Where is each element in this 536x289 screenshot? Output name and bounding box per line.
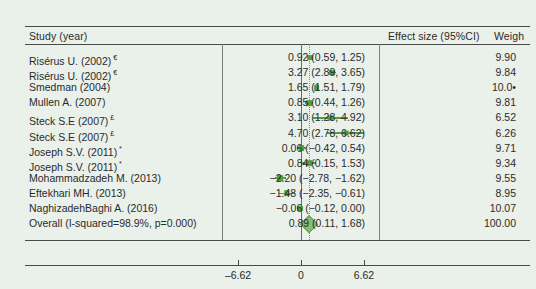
x-axis-tick-label: –6.62	[225, 269, 251, 281]
weight-value: 9.81	[496, 95, 516, 110]
study-label: Mohammadzadeh M. (2013)	[29, 171, 161, 186]
effect-size-value: 0.06 (−0.42, 0.54)	[282, 141, 365, 156]
effect-size-value: 1.65 (1.51, 1.79)	[288, 80, 365, 95]
column-header-study: Study (year)	[29, 30, 87, 42]
weight-value: 9.71	[496, 141, 516, 156]
x-axis-tick	[301, 260, 302, 265]
weight-value: 8.95	[496, 186, 516, 201]
x-axis-tick	[238, 260, 239, 265]
effect-size-value: 0.92 (0.59, 1.25)	[288, 50, 365, 65]
header-rule-top	[25, 26, 530, 27]
study-label: Eftekhari MH. (2013)	[29, 186, 126, 201]
effect-size-value: 3.27 (2.89, 3.65)	[288, 65, 365, 80]
study-label: NaghizadehBaghi A. (2016)	[29, 201, 157, 216]
column-header-weight: Weigh	[494, 30, 524, 42]
x-axis-tick-label: 0	[298, 269, 304, 281]
x-axis-tick	[364, 260, 365, 265]
table-rule-bottom	[25, 240, 530, 241]
study-label: Mullen A. (2007)	[29, 95, 105, 110]
weight-value: 10.07	[490, 201, 516, 216]
overall-label: Overall (I-squared=98.9%, p=0.000)	[29, 216, 197, 231]
weight-value: 6.26	[496, 126, 516, 141]
effect-size-value: 0.84 (0.15, 1.53)	[288, 156, 365, 171]
effect-size-value: 0.85 (0.44, 1.26)	[288, 95, 365, 110]
weight-value: 6.52	[496, 110, 516, 125]
study-footnote-marker: £	[108, 130, 114, 137]
column-header-effect-size: Effect size (95%CI)	[388, 30, 480, 42]
weight-value: 10.0•	[492, 80, 516, 95]
study-footnote-marker: €	[111, 54, 117, 61]
forest-plot-figure: Study (year) Effect size (95%CI) Weigh R…	[0, 0, 536, 289]
weight-value: 9.55	[496, 171, 516, 186]
effect-size-value: 0.89 (0.11, 1.68)	[289, 216, 365, 231]
effect-size-value: −2.20 (−2.78, −1.62)	[270, 171, 365, 186]
weight-value: 9.84	[496, 65, 516, 80]
weight-value: 9.34	[496, 156, 516, 171]
study-footnote-marker: *	[117, 145, 122, 152]
effect-size-value: −0.06 (−0.12, 0.00)	[276, 201, 365, 216]
x-axis-line	[25, 265, 530, 266]
study-footnote-marker: €	[111, 69, 117, 76]
x-axis-tick-label: 6.62	[354, 269, 374, 281]
effect-size-value: −1.48 (−2.35, −0.61)	[270, 186, 365, 201]
study-footnote-marker: *	[117, 160, 122, 167]
weight-value: 9.90	[496, 50, 516, 65]
study-label: Smedman (2004)	[29, 80, 110, 95]
effect-size-value: 4.70 (2.78, 6.62)	[288, 126, 365, 141]
weight-value: 100.00	[484, 216, 516, 231]
study-footnote-marker: £	[108, 114, 114, 121]
column-divider-right	[379, 44, 380, 240]
figure-plate: Study (year) Effect size (95%CI) Weigh R…	[7, 7, 529, 282]
effect-size-value: 3.10 (1.28, 4.92)	[288, 110, 365, 125]
